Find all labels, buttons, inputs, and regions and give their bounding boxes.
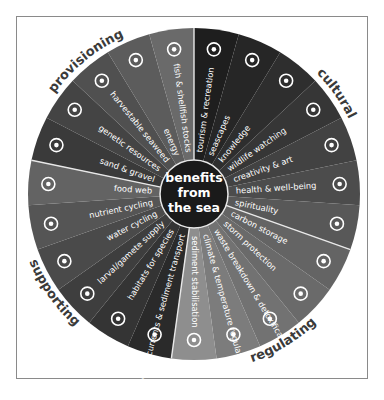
center-hub: benefits from the sea — [160, 160, 228, 228]
center-title-line-1: benefits — [165, 170, 222, 185]
center-title-line-2: from — [177, 185, 210, 200]
benefits-wheel: tourism & recreationseascapesknowledgewi… — [0, 0, 384, 400]
segment-label: sediment stabilisation — [190, 236, 200, 327]
center-title-line-3: the sea — [168, 200, 220, 215]
